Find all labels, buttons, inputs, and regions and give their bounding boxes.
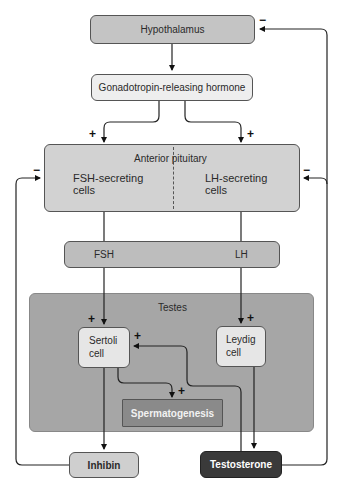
plus-sign-fsh-cells: +	[89, 128, 96, 140]
fsh-cells-label-1: FSH-secreting	[73, 172, 143, 184]
plus-sign-spermatogenesis: +	[178, 385, 185, 397]
lh-cells-label-1: LH-secreting	[205, 172, 267, 184]
gnrh-label: Gonadotropin-releasing hormone	[99, 82, 246, 93]
anterior-pituitary-label: Anterior pituitary	[134, 153, 207, 165]
lh-label: LH	[235, 249, 248, 261]
minus-sign-pituitary-left: −	[33, 164, 40, 176]
hypothalamus-node: Hypothalamus	[90, 15, 255, 44]
spermatogenesis-label: Spermatogenesis	[131, 408, 214, 419]
sertoli-label-2: cell	[89, 348, 104, 360]
anterior-pituitary-node: Anterior pituitary FSH-secreting cells L…	[44, 144, 300, 212]
leydig-label-1: Leydig	[226, 334, 255, 346]
fsh-label: FSH	[94, 249, 114, 261]
inhibin-label: Inhibin	[88, 460, 121, 471]
plus-sign-sertoli: +	[88, 313, 95, 325]
leydig-cell-node: Leydig cell	[216, 326, 266, 367]
minus-sign-hypothalamus: −	[259, 14, 266, 26]
fsh-cells-label-2: cells	[73, 184, 95, 196]
testosterone-node: Testosterone	[200, 451, 282, 478]
gnrh-node: Gonadotropin-releasing hormone	[91, 74, 253, 101]
minus-sign-pituitary-right: −	[303, 164, 310, 176]
fsh-lh-node: FSH LH	[64, 241, 280, 268]
hypothalamus-label: Hypothalamus	[141, 24, 205, 35]
plus-sign-lh-cells: +	[247, 128, 254, 140]
inhibin-node: Inhibin	[69, 452, 139, 478]
testosterone-label: Testosterone	[210, 459, 272, 470]
leydig-label-2: cell	[226, 347, 241, 359]
plus-sign-testosterone-sertoli: +	[134, 330, 141, 342]
plus-sign-leydig: +	[247, 312, 254, 324]
spermatogenesis-node: Spermatogenesis	[122, 399, 223, 427]
sertoli-cell-node: Sertoli cell	[78, 327, 130, 368]
lh-cells-label-2: cells	[205, 184, 227, 196]
sertoli-label-1: Sertoli	[89, 335, 117, 347]
